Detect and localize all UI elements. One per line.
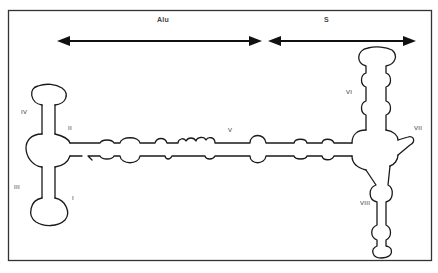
label-helix-vi: VI [346, 89, 352, 95]
label-helix-viii: VIII [360, 200, 370, 206]
helix-v-top-strand [70, 136, 352, 144]
helix-vi [359, 47, 396, 130]
diagram-canvas: Alu S I II III IV V VI VII VIII [0, 0, 438, 273]
junction-right [352, 130, 398, 170]
label-helix-iv: IV [21, 109, 27, 115]
s-span-arrow [268, 36, 416, 46]
helix-v-bottom-strand-2 [88, 156, 352, 163]
junction-left [26, 134, 70, 167]
label-helix-vii: VII [414, 125, 422, 131]
label-s: S [324, 16, 329, 23]
helix-iv-loop [32, 84, 67, 134]
label-helix-v: V [228, 127, 232, 133]
helix-iii-loop [31, 167, 68, 226]
rna-structure-diagram [0, 0, 438, 273]
label-helix-ii: II [68, 125, 72, 131]
helix-viii [366, 166, 392, 258]
label-helix-iii: III [14, 184, 20, 190]
label-alu: Alu [157, 16, 169, 23]
alu-span-arrow [57, 36, 262, 46]
helix-vii [398, 137, 414, 155]
label-helix-i: I [72, 195, 74, 201]
